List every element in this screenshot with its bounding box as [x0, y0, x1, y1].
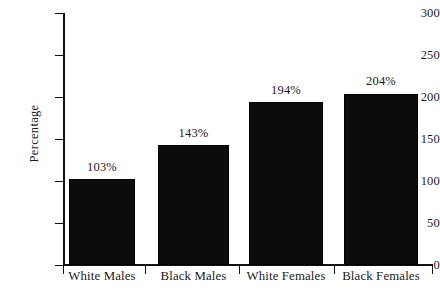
y-axis-title: Percentage	[27, 79, 42, 189]
bar-value-black-females: 204%	[344, 75, 418, 88]
y-tick-label-300: 300	[392, 7, 440, 20]
bar-black-males	[158, 145, 229, 265]
bar-value-white-females: 194%	[249, 84, 323, 97]
bar-chart: Percentage 300 250 200 150 100 50 0 103%…	[0, 0, 440, 297]
y-tick-label-250: 250	[392, 49, 440, 62]
bar-value-black-males: 143%	[158, 127, 229, 140]
bar-value-white-males: 103%	[69, 161, 135, 174]
y-axis-line	[63, 13, 65, 266]
x-category-label-black-females: Black Females	[323, 269, 439, 283]
x-category-label-white-males: White Males	[52, 269, 152, 283]
bar-white-males	[69, 179, 135, 266]
bar-white-females	[249, 102, 323, 265]
bar-black-females	[344, 94, 418, 265]
